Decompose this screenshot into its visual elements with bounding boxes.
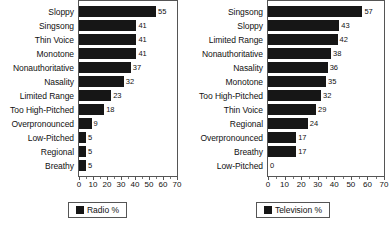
television-bar-value-label: 0 bbox=[268, 159, 274, 172]
radio-bar-value-label: 41 bbox=[136, 33, 146, 46]
radio-axis-tick-label: 50 bbox=[145, 180, 154, 189]
television-bar bbox=[268, 34, 338, 45]
television-axis-tick-label: 20 bbox=[297, 180, 306, 189]
radio-category-label: Nonauthoritative bbox=[0, 61, 78, 75]
radio-legend-label: Radio % bbox=[87, 205, 119, 215]
radio-bar bbox=[79, 146, 86, 157]
television-bar-row: 35 bbox=[268, 75, 384, 89]
radio-plot-area: 55414141373223189555 bbox=[78, 0, 178, 177]
television-bar-row: 24 bbox=[268, 117, 384, 131]
radio-category-label: Nasality bbox=[0, 75, 78, 89]
television-category-label: Limited Range bbox=[195, 33, 267, 47]
radio-category-label: Sloppy bbox=[0, 5, 78, 19]
radio-bar-value-label: 55 bbox=[156, 5, 166, 18]
television-axis-minor-tick bbox=[309, 177, 310, 179]
radio-bar-value-label: 37 bbox=[131, 61, 141, 74]
radio-value-axis: 010203040506070 bbox=[78, 177, 178, 193]
radio-bar-value-label: 5 bbox=[86, 159, 92, 172]
television-axis-tick-label: 50 bbox=[346, 180, 355, 189]
radio-axis-tick-label: 30 bbox=[117, 180, 126, 189]
television-category-label: Low-Pitched bbox=[195, 159, 267, 173]
radio-legend-box: Radio % bbox=[68, 202, 127, 218]
television-category-label: Too High-Pitched bbox=[195, 89, 267, 103]
radio-category-label: Low-Pitched bbox=[0, 131, 78, 145]
radio-bar bbox=[79, 62, 131, 73]
television-plot-area: 57434238363532292417170 bbox=[267, 0, 385, 177]
radio-axis-minor-tick bbox=[170, 177, 171, 179]
television-plot-column: 57434238363532292417170 010203040506070 bbox=[267, 0, 385, 193]
radio-plot-column: 55414141373223189555 010203040506070 bbox=[78, 0, 178, 193]
radio-category-label: Limited Range bbox=[0, 89, 78, 103]
radio-axis-minor-tick bbox=[86, 177, 87, 179]
television-axis-tick-label: 70 bbox=[380, 180, 389, 189]
radio-bar-value-label: 41 bbox=[136, 19, 146, 32]
television-bar-value-label: 57 bbox=[362, 5, 372, 18]
television-bar-value-label: 35 bbox=[326, 75, 336, 88]
radio-bar-row: 32 bbox=[79, 75, 177, 89]
radio-axis-tick-label: 70 bbox=[173, 180, 182, 189]
television-axis-minor-tick bbox=[376, 177, 377, 179]
television-bar bbox=[268, 118, 308, 129]
radio-bar-value-label: 32 bbox=[124, 75, 134, 88]
television-bar bbox=[268, 104, 316, 115]
radio-bar-value-label: 18 bbox=[104, 103, 114, 116]
television-category-label: Nonauthoritative bbox=[195, 47, 267, 61]
television-bar bbox=[268, 76, 326, 87]
radio-axis-minor-tick bbox=[156, 177, 157, 179]
television-chart: SingsongSloppyLimited RangeNonauthoritat… bbox=[195, 0, 391, 235]
television-bar-value-label: 38 bbox=[331, 47, 341, 60]
radio-bar-row: 23 bbox=[79, 89, 177, 103]
radio-bar-row: 18 bbox=[79, 103, 177, 117]
radio-category-label: Singsong bbox=[0, 19, 78, 33]
radio-chart: SloppySingsongThin VoiceMonotoneNonautho… bbox=[0, 0, 195, 235]
radio-bar-value-label: 5 bbox=[86, 145, 92, 158]
television-category-label: Nasality bbox=[195, 61, 267, 75]
television-legend-label: Television % bbox=[275, 205, 322, 215]
television-axis-minor-tick bbox=[343, 177, 344, 179]
television-bar bbox=[268, 90, 321, 101]
radio-bar bbox=[79, 118, 92, 129]
television-axis-tick-label: 0 bbox=[266, 180, 270, 189]
radio-category-label: Overpronounced bbox=[0, 117, 78, 131]
television-bar-value-label: 36 bbox=[328, 61, 338, 74]
television-bar-value-label: 29 bbox=[316, 103, 326, 116]
television-bar-value-label: 32 bbox=[321, 89, 331, 102]
television-legend-box: Television % bbox=[256, 202, 330, 218]
radio-bar bbox=[79, 48, 136, 59]
television-bar-value-label: 43 bbox=[339, 19, 349, 32]
radio-bar-value-label: 23 bbox=[111, 89, 121, 102]
television-axis-minor-tick bbox=[326, 177, 327, 179]
radio-bar-value-label: 5 bbox=[86, 131, 92, 144]
radio-bar-row: 55 bbox=[79, 5, 177, 19]
television-axis-minor-tick bbox=[276, 177, 277, 179]
dual-bar-chart-figure: SloppySingsongThin VoiceMonotoneNonautho… bbox=[0, 0, 391, 235]
television-bar-row: 36 bbox=[268, 61, 384, 75]
radio-bar bbox=[79, 104, 104, 115]
radio-bar-row: 41 bbox=[79, 47, 177, 61]
radio-bar-value-label: 9 bbox=[92, 117, 98, 130]
television-bar-row: 17 bbox=[268, 131, 384, 145]
radio-axis-tick-label: 10 bbox=[89, 180, 98, 189]
radio-bar-row: 41 bbox=[79, 33, 177, 47]
radio-legend-swatch-icon bbox=[76, 206, 84, 214]
radio-category-label: Too High-Pitched bbox=[0, 103, 78, 117]
radio-bar bbox=[79, 132, 86, 143]
television-axis-minor-tick bbox=[293, 177, 294, 179]
television-category-label: Regional bbox=[195, 117, 267, 131]
television-legend: Television % bbox=[195, 202, 391, 218]
television-bar-value-label: 24 bbox=[308, 117, 318, 130]
television-value-axis: 010203040506070 bbox=[267, 177, 385, 193]
television-bar-row: 38 bbox=[268, 47, 384, 61]
television-axis-tick-label: 40 bbox=[330, 180, 339, 189]
radio-bar bbox=[79, 34, 136, 45]
radio-bar bbox=[79, 90, 111, 101]
radio-axis-minor-tick bbox=[114, 177, 115, 179]
television-category-axis: SingsongSloppyLimited RangeNonauthoritat… bbox=[195, 0, 267, 173]
radio-category-label: Breathy bbox=[0, 159, 78, 173]
radio-axis-tick-label: 40 bbox=[131, 180, 140, 189]
television-bar-row: 32 bbox=[268, 89, 384, 103]
radio-axis-minor-tick bbox=[142, 177, 143, 179]
television-category-label: Singsong bbox=[195, 5, 267, 19]
radio-category-label: Monotone bbox=[0, 47, 78, 61]
radio-bar bbox=[79, 6, 156, 17]
